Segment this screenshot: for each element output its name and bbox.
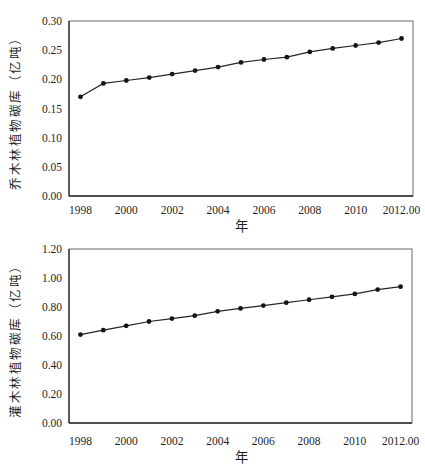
y-tick-label: 0.00	[42, 190, 62, 202]
plot-border	[69, 21, 413, 196]
data-point	[353, 43, 358, 48]
y-tick-label: 1.00	[42, 272, 62, 284]
data-point	[330, 294, 335, 299]
data-point	[398, 284, 403, 289]
data-point	[192, 313, 197, 318]
data-point	[193, 68, 198, 73]
data-point	[78, 332, 83, 337]
data-point	[307, 50, 312, 55]
y-axis-title: 灌木林植物碳库（亿吨）	[5, 258, 24, 418]
figure-canvas: 0.000.050.100.150.200.250.30199820002002…	[0, 0, 425, 474]
data-point	[238, 306, 243, 311]
data-point	[147, 319, 152, 324]
data-point	[284, 55, 289, 60]
data-point	[399, 36, 404, 41]
y-tick-label: 0.15	[42, 103, 62, 115]
data-point	[101, 81, 106, 86]
data-point	[124, 78, 129, 83]
chart-shrub-forest-carbon: 0.000.200.400.600.801.001.20199820002002…	[0, 237, 425, 474]
data-point	[376, 40, 381, 45]
data-point	[124, 323, 129, 328]
y-tick-label: 1.20	[42, 243, 62, 255]
shrub-carbon-line-plot: 0.000.200.400.600.801.001.20199820002002…	[0, 237, 425, 474]
data-point	[215, 309, 220, 314]
plot-border	[69, 249, 412, 423]
y-tick-label: 0.80	[42, 301, 62, 313]
y-tick-label: 0.10	[42, 132, 62, 144]
y-tick-label: 0.60	[42, 330, 62, 342]
y-axis-title: 乔木林植物碳库（亿吨）	[5, 30, 24, 190]
y-tick-label: 0.00	[42, 417, 62, 429]
data-point	[330, 46, 335, 51]
data-point	[262, 57, 267, 62]
arbor-carbon-line-plot: 0.000.050.100.150.200.250.30199820002002…	[0, 0, 425, 237]
data-line	[80, 39, 401, 97]
data-point	[170, 72, 175, 77]
y-tick-label: 0.05	[42, 161, 62, 173]
y-tick-label: 0.20	[42, 73, 62, 85]
y-tick-label: 0.40	[42, 359, 62, 371]
data-point	[352, 292, 357, 297]
chart-arbor-forest-carbon: 0.000.050.100.150.200.250.30199820002002…	[0, 0, 425, 237]
data-point	[307, 297, 312, 302]
data-point	[284, 300, 289, 305]
x-axis-title: 年	[69, 215, 413, 235]
y-tick-label: 0.30	[42, 15, 62, 27]
data-point	[170, 316, 175, 321]
data-point	[375, 287, 380, 292]
data-point	[216, 65, 221, 70]
data-point	[147, 75, 152, 80]
y-tick-label: 0.25	[42, 44, 62, 56]
y-tick-label: 0.20	[42, 388, 62, 400]
data-point	[261, 303, 266, 308]
data-point	[78, 94, 83, 99]
data-point	[239, 60, 244, 65]
x-axis-title: 年	[69, 446, 413, 466]
data-point	[101, 328, 106, 333]
